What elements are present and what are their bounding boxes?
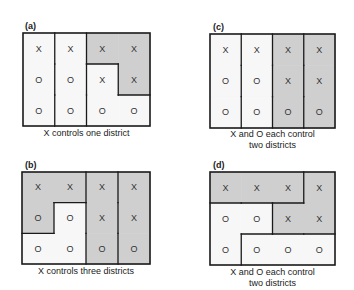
x-voter-mark: X xyxy=(254,45,260,55)
panel-label-c: (c) xyxy=(213,22,224,32)
o-voter-mark: O xyxy=(253,214,260,224)
x-voter-mark: X xyxy=(68,44,74,54)
o-voter-mark: O xyxy=(99,106,106,116)
panel-caption-c: X and O each controltwo districts xyxy=(210,129,335,151)
x-voter-mark: X xyxy=(131,44,137,54)
o-voter-mark: O xyxy=(66,244,73,254)
o-voter-mark: O xyxy=(253,107,260,117)
district-grid-c: XXXXOOXXOOOO xyxy=(210,34,335,128)
o-voter-mark: O xyxy=(67,106,74,116)
x-voter-mark: X xyxy=(316,183,322,193)
x-voter-mark: X xyxy=(99,213,105,223)
x-voter-mark: X xyxy=(316,76,322,86)
o-voter-mark: O xyxy=(67,75,74,85)
o-voter-mark: O xyxy=(131,106,138,116)
panel-label-a: (a) xyxy=(25,21,36,31)
x-voter-mark: X xyxy=(223,45,229,55)
x-voter-mark: X xyxy=(223,183,229,193)
o-voter-mark: O xyxy=(316,107,323,117)
district-grid-d: XXXXOOXXOOOO xyxy=(210,172,335,265)
caption-line: X controls three districts xyxy=(22,266,150,277)
x-voter-mark: X xyxy=(99,182,105,192)
o-voter-mark: O xyxy=(285,245,292,255)
o-voter-mark: O xyxy=(285,107,292,117)
o-voter-mark: O xyxy=(35,75,42,85)
o-voter-mark: O xyxy=(222,245,229,255)
panel-caption-b: X controls three districts xyxy=(22,266,150,277)
o-voter-mark: O xyxy=(35,106,42,116)
x-voter-mark: X xyxy=(254,183,260,193)
caption-line: X and O each control xyxy=(210,267,335,278)
o-voter-mark: O xyxy=(130,244,137,254)
x-voter-mark: X xyxy=(285,183,291,193)
x-voter-mark: X xyxy=(35,182,41,192)
o-voter-mark: O xyxy=(222,214,229,224)
x-voter-mark: X xyxy=(285,214,291,224)
x-voter-mark: X xyxy=(36,44,42,54)
o-voter-mark: O xyxy=(66,213,73,223)
x-voter-mark: X xyxy=(316,45,322,55)
panel-caption-d: X and O each controltwo districts xyxy=(210,267,335,289)
panel-label-b: (b) xyxy=(25,160,37,170)
x-voter-mark: X xyxy=(285,45,291,55)
o-voter-mark: O xyxy=(222,76,229,86)
x-voter-mark: X xyxy=(99,44,105,54)
x-voter-mark: X xyxy=(131,182,137,192)
x-voter-mark: X xyxy=(131,75,137,85)
district-grid-b: XXXXOOXXOOOO xyxy=(22,172,150,264)
o-voter-mark: O xyxy=(98,244,105,254)
x-voter-mark: X xyxy=(67,182,73,192)
panel-label-d: (d) xyxy=(213,160,225,170)
x-voter-mark: X xyxy=(285,76,291,86)
district-grid-a: XXXXOOXXOOOO xyxy=(23,33,150,126)
o-voter-mark: O xyxy=(316,245,323,255)
x-voter-mark: X xyxy=(131,213,137,223)
o-voter-mark: O xyxy=(253,76,260,86)
o-voter-mark: O xyxy=(222,107,229,117)
o-voter-mark: O xyxy=(253,245,260,255)
x-voter-mark: X xyxy=(99,75,105,85)
o-voter-mark: O xyxy=(34,213,41,223)
o-voter-mark: O xyxy=(34,244,41,254)
caption-line: two districts xyxy=(210,140,335,151)
x-voter-mark: X xyxy=(316,214,322,224)
panel-caption-a: X controls one district xyxy=(23,128,150,139)
caption-line: X and O each control xyxy=(210,129,335,140)
caption-line: X controls one district xyxy=(23,128,150,139)
caption-line: two districts xyxy=(210,278,335,289)
